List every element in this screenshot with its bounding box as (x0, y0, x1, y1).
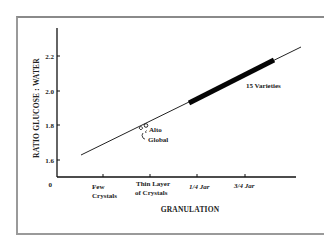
global-pointer-icon (142, 133, 145, 139)
alto-marker (144, 124, 148, 128)
y-origin-label: 0 (49, 181, 53, 189)
x-label-three-quarter-jar: 3/4 Jar (233, 182, 255, 190)
global-marker (139, 126, 143, 130)
x-label-few-crystals-line2: Crystals (92, 192, 117, 200)
y-axis-title: RATIO GLUCOSE : WATER (32, 58, 41, 158)
varieties-label: 15 Varieties (246, 82, 281, 90)
y-tick-2.2: 2.2 (45, 53, 54, 61)
global-label: Global (148, 136, 168, 144)
x-label-few-crystals-line1: Few (92, 183, 105, 191)
alto-label: Alto (149, 126, 162, 134)
y-tick-1.6: 1.6 (45, 157, 54, 165)
y-tick-2.0: 2.0 (45, 88, 54, 96)
x-label-thin-layer-line1: Thin Layer (136, 180, 170, 188)
x-label-thin-layer-line2: of Crystals (135, 189, 168, 197)
x-label-quarter-jar: 1/4 Jar (189, 183, 210, 191)
y-tick-1.8: 1.8 (45, 122, 54, 130)
x-axis-title: GRANULATION (161, 205, 220, 214)
alto-pointer-icon (146, 131, 147, 134)
chart-canvas: 2.2 2.0 1.8 1.6 0 RATIO GLUCOSE : WATER … (0, 0, 328, 247)
